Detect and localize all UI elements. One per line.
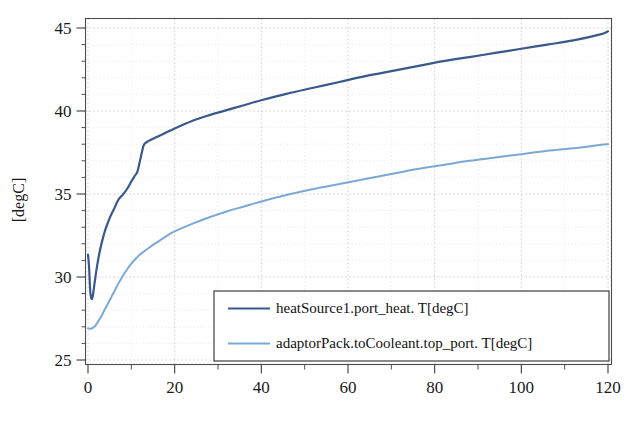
y-tick-label: 25 — [55, 351, 72, 370]
x-tick-label: 80 — [426, 378, 443, 397]
legend-label: adaptorPack.toCooleant.top_port. T[degC] — [276, 335, 532, 351]
x-tick-label: 100 — [509, 378, 535, 397]
legend-label: heatSource1.port_heat. T[degC] — [276, 300, 469, 316]
x-tick-label: 0 — [84, 378, 93, 397]
x-tick-label: 20 — [166, 378, 183, 397]
chart-figure: 020406080100120 2530354045 [degC] heatSo… — [0, 0, 628, 424]
line-chart-canvas: 020406080100120 2530354045 [degC] heatSo… — [0, 0, 628, 424]
chart-legend[interactable]: heatSource1.port_heat. T[degC]adaptorPac… — [214, 291, 609, 361]
y-axis-title: [degC] — [10, 178, 28, 222]
y-tick-label: 45 — [55, 19, 72, 38]
y-tick-label: 35 — [55, 185, 72, 204]
x-tick-label: 120 — [595, 378, 621, 397]
x-tick-label: 60 — [340, 378, 357, 397]
x-tick-label: 40 — [253, 378, 270, 397]
y-tick-label: 30 — [55, 268, 72, 287]
y-tick-label: 40 — [55, 102, 72, 121]
